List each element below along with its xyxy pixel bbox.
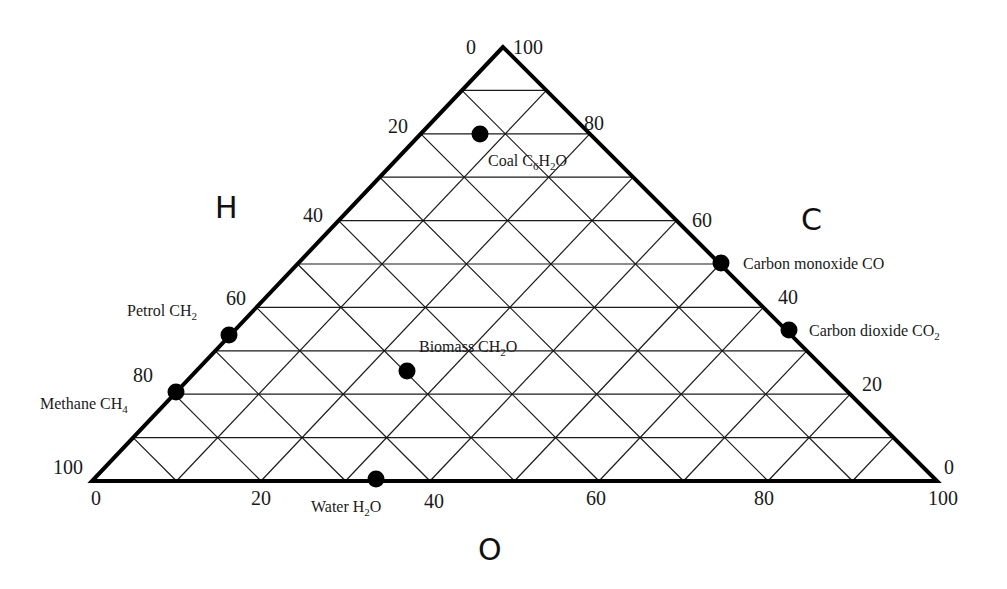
- tick-h-20: 20: [388, 115, 408, 137]
- tick-h-60: 60: [226, 287, 246, 309]
- point-methane: [168, 384, 185, 401]
- grid-line: [133, 438, 176, 481]
- tick-c-0: 0: [944, 456, 954, 478]
- point-petrol: [221, 327, 238, 344]
- tick-o-100: 100: [928, 487, 958, 509]
- tick-h-80: 80: [133, 364, 153, 386]
- axis-label-o: O: [478, 532, 502, 567]
- ternary-diagram: 0 100 20 40 60 80 100 80 60 40 20 0 0 20…: [0, 0, 1007, 589]
- point-coal: [472, 126, 489, 143]
- axis-label-h: H: [215, 190, 238, 225]
- grid-line: [177, 90, 547, 481]
- label-methane: Methane CH4: [40, 395, 128, 415]
- label-carbon-monoxide: Carbon monoxide CO: [743, 255, 884, 272]
- tick-o-40: 40: [424, 490, 444, 512]
- label-biomass: Biomass CH2O: [419, 338, 517, 358]
- label-water: Water H2O: [311, 498, 381, 518]
- label-carbon-dioxide: Carbon dioxide CO2: [809, 322, 940, 342]
- tick-c-20: 20: [862, 373, 882, 395]
- label-coal: Coal C6H2O: [488, 152, 567, 172]
- grid-line: [346, 177, 634, 481]
- point-biomass: [399, 363, 416, 380]
- tick-c-60: 60: [692, 209, 712, 231]
- tick-o-80: 80: [754, 487, 774, 509]
- label-petrol: Petrol CH2: [127, 302, 197, 322]
- point-water: [368, 471, 385, 488]
- tick-c-40: 40: [778, 286, 798, 308]
- tick-h-0: 0: [466, 36, 476, 58]
- grid-line: [684, 351, 807, 481]
- tick-h-40: 40: [303, 204, 323, 226]
- point-carbon-monoxide: [713, 255, 730, 272]
- tick-h-100: 100: [53, 456, 83, 478]
- tick-o-0: 0: [91, 487, 101, 509]
- grid-line: [853, 438, 894, 481]
- grid-line: [515, 264, 721, 481]
- grid-line: [380, 177, 684, 481]
- axis-label-c: C: [801, 202, 822, 237]
- tick-o-60: 60: [586, 487, 606, 509]
- tick-c-100: 100: [513, 36, 543, 58]
- tick-c-80: 80: [584, 112, 604, 134]
- tick-o-20: 20: [251, 487, 271, 509]
- point-carbon-dioxide: [781, 322, 798, 339]
- grid-line: [215, 351, 345, 481]
